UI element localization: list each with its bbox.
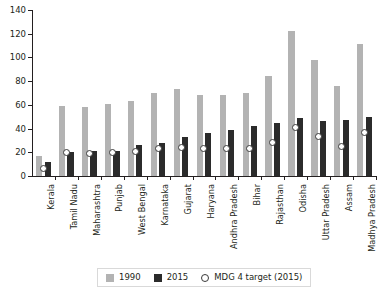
x-axis-category-label: Rajasthan [276,184,284,225]
x-axis-category-label: Bihar [253,184,261,205]
chart-legend: 19902015MDG 4 target (2015) [97,268,311,287]
x-axis-tick [170,176,171,180]
bar-group [238,10,261,176]
bar-1990 [128,101,134,176]
bar-2015 [228,130,234,176]
bar-2015 [274,123,280,176]
bar-1990 [220,95,226,176]
bar-2015 [251,126,257,176]
mdg-target-marker [132,148,139,155]
x-axis-category-label: Maharashtra [93,184,101,236]
bar-group [284,10,307,176]
bar-group [101,10,124,176]
y-axis-tick-label: 100 [10,53,26,62]
bar-group [215,10,238,176]
x-axis-tick [147,176,148,180]
bar-group [193,10,216,176]
bar-1990 [197,95,203,176]
bar-group [307,10,330,176]
x-axis-tick [101,176,102,180]
bar-2015 [366,117,372,176]
x-axis-line [32,176,376,177]
bar-group [170,10,193,176]
legend-item[interactable]: 1990 [106,273,141,282]
x-axis-category-label: Kerala [47,184,55,210]
bar-1990 [265,76,271,176]
x-axis-category-label: Uttar Pradesh [322,184,330,240]
bar-2015 [320,121,326,176]
bar-1990 [59,106,65,176]
mdg-target-marker [361,129,368,136]
x-axis-tick [215,176,216,180]
mdg-target-marker [178,144,185,151]
chart-figure: 020406080100120140 KeralaTamil NaduMahar… [0,0,380,296]
y-axis-tick-label: 60 [15,101,26,110]
bar-2015 [67,152,73,176]
bar-1990 [174,89,180,176]
y-axis-tick-label: 0 [21,172,26,181]
bar-group [124,10,147,176]
x-axis-tick [284,176,285,180]
bar-2015 [205,133,211,176]
x-axis-category-label: Odisha [299,184,307,212]
x-axis-category-label: Gujarat [184,184,192,214]
bar-group [353,10,376,176]
mdg-target-marker [63,149,70,156]
mdg-target-marker [109,149,116,156]
x-axis-category-label: Punjab [115,184,123,212]
bar-2015 [182,137,188,176]
bar-1990 [334,86,340,176]
bar-group [78,10,101,176]
bar-1990 [311,60,317,176]
legend-item[interactable]: 2015 [154,273,189,282]
x-axis-category-label: Haryana [207,184,215,219]
y-axis-tick-label: 40 [15,124,26,133]
x-axis-category-label: Karnataka [161,184,169,226]
x-axis-category-label: Andhra Pradesh [230,184,238,249]
bar-1990 [243,93,249,176]
bar-group [147,10,170,176]
legend-swatch-icon [106,274,114,282]
legend-label: MDG 4 target (2015) [214,273,302,282]
x-axis-tick [376,176,377,180]
legend-item[interactable]: MDG 4 target (2015) [201,273,302,282]
x-axis-category-label: West Bengal [138,184,146,235]
bar-1990 [151,93,157,176]
mdg-target-marker [86,150,93,157]
bar-1990 [105,104,111,176]
x-axis-category-label: Assam [345,184,353,211]
x-axis-tick [55,176,56,180]
legend-swatch-icon [154,274,162,282]
bar-group [330,10,353,176]
bar-1990 [82,107,88,176]
x-axis-tick [307,176,308,180]
x-axis-tick [261,176,262,180]
y-axis-tick-label: 20 [15,148,26,157]
x-axis-category-label: Tamil Nadu [70,184,78,229]
x-axis-tick [330,176,331,180]
x-axis-category-label: Madhya Pradesh [368,184,376,252]
legend-label: 1990 [119,273,141,282]
x-axis-tick [353,176,354,180]
legend-swatch-icon [201,274,209,282]
bar-1990 [288,31,294,176]
y-axis-tick-label: 120 [10,29,26,38]
bar-group [32,10,55,176]
y-axis-tick-label: 140 [10,6,26,15]
mdg-target-marker [338,143,345,150]
y-axis-tick-label: 80 [15,77,26,86]
x-axis-tick [193,176,194,180]
y-axis-tick [28,176,32,177]
mdg-target-marker [155,145,162,152]
x-axis-tick [78,176,79,180]
legend-label: 2015 [167,273,189,282]
bar-1990 [357,44,363,176]
plot-area: 020406080100120140 [32,10,376,176]
x-axis-tick [124,176,125,180]
x-axis-tick [238,176,239,180]
bar-group [55,10,78,176]
bar-group [261,10,284,176]
